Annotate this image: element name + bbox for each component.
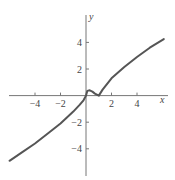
y-tick-label: 4 <box>77 37 82 48</box>
x-tick-label: −2 <box>55 98 66 109</box>
x-tick-label: 4 <box>135 98 140 109</box>
y-tick-label: −2 <box>71 117 82 128</box>
x-tick-label: −4 <box>30 98 41 109</box>
y-tick-label: −4 <box>71 143 82 154</box>
y-axis-label: y <box>88 11 94 22</box>
axes <box>9 15 168 176</box>
x-axis-label: x <box>159 94 165 105</box>
x-tick-label: 2 <box>109 98 114 109</box>
y-tick-label: 2 <box>77 64 82 75</box>
function-plot: −4−22442−2−4 x y <box>0 0 175 180</box>
